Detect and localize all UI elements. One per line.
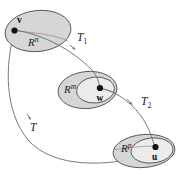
point-u-dot (152, 144, 158, 150)
space-rn-label-exponent: n (35, 35, 39, 44)
space-rp-label-exponent: p (127, 141, 132, 150)
point-w-label: w (97, 93, 104, 103)
map-t1-arrowhead (70, 45, 75, 50)
diagram-canvas: v w u Rn Rm Rp T1 T2 T (0, 0, 180, 178)
map-t-label: T (30, 121, 38, 133)
point-v-label: v (17, 15, 22, 25)
point-v-dot (11, 27, 17, 33)
point-u-label: u (152, 152, 158, 162)
transformation-diagram: v w u Rn Rm Rp T1 T2 T (0, 0, 180, 178)
map-t-label-base: T (30, 121, 38, 133)
point-w-dot (97, 85, 103, 91)
map-t2-label-subscript: 2 (147, 101, 151, 110)
map-t1-label-subscript: 1 (83, 37, 87, 46)
map-t1-label: T1 (77, 31, 87, 46)
map-t-arrowhead (27, 114, 31, 120)
space-rm-label-exponent: m (71, 82, 77, 91)
map-t2-label: T2 (141, 95, 151, 110)
